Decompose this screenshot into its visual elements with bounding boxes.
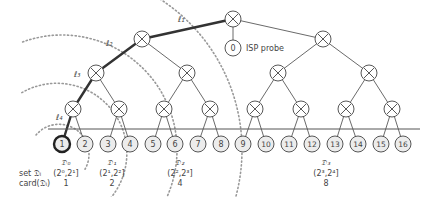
svg-text:𝔇₀: 𝔇₀ [61,158,70,167]
svg-text:4: 4 [127,140,132,149]
mux-node-level-3 [179,65,195,81]
svg-text:15: 15 [376,140,386,149]
svg-text:𝔇₂: 𝔇₂ [175,158,184,167]
distance-arc [22,0,242,197]
mux-node-level-4 [111,101,127,117]
leaf-node-2: 2 [77,136,93,152]
svg-text:(2⁰,2¹]: (2⁰,2¹] [53,169,78,178]
svg-text:3: 3 [105,140,110,149]
mux-node-level-4 [202,101,218,117]
svg-text:2: 2 [109,179,114,188]
svg-text:8: 8 [323,179,328,188]
distance-arcs [22,0,242,197]
path-segment-label: ℓ₂ [105,39,113,48]
isp-probe-caption: ISP probe [246,44,284,53]
tree-diagram: 012345678910111213141516 ISP probeℓ₁ℓ₂ℓ₃… [0,0,438,197]
leaf-node-13: 13 [327,136,343,152]
svg-text:12: 12 [307,140,317,149]
isp-probe-node: 0 [225,40,241,56]
path-segment-label: ℓ₃ [73,70,81,79]
mux-node-level-3 [270,65,286,81]
labels: ISP probeℓ₁ℓ₂ℓ₃ℓ₄set 𝔇ᵢcard(𝔇ᵢ)𝔇₀(2⁰,2¹]… [19,15,339,188]
svg-text:13: 13 [330,140,340,149]
row-label-card: card(𝔇ᵢ) [19,179,50,188]
svg-text:0: 0 [230,44,235,53]
root-mux-node [225,11,241,27]
tree-edge [142,39,187,73]
leaf-node-1: 1 [54,136,70,152]
svg-text:1: 1 [63,179,68,188]
leaf-node-12: 12 [304,136,320,152]
mux-node-level-4 [293,101,309,117]
svg-text:16: 16 [398,140,408,149]
svg-text:(2²,2³]: (2²,2³] [167,169,192,178]
svg-text:4: 4 [177,179,182,188]
leaf-node-15: 15 [373,136,389,152]
mux-node-level-3 [361,65,377,81]
set-column: 𝔇₂(2²,2³]4 [167,158,192,188]
svg-text:10: 10 [261,140,271,149]
mux-node-level-2 [134,31,150,47]
svg-text:2: 2 [82,140,87,149]
mux-node-level-3 [88,65,104,81]
mux-node-level-2 [315,31,331,47]
leaf-node-4: 4 [122,136,138,152]
svg-text:9: 9 [240,140,245,149]
path-segment-label: ℓ₄ [55,113,63,122]
mux-node-level-4 [384,101,400,117]
tree-edge [323,39,369,73]
svg-text:11: 11 [284,140,294,149]
leaf-node-5: 5 [145,136,161,152]
row-label-set: set 𝔇ᵢ [19,169,41,178]
svg-text:(2³,2⁴]: (2³,2⁴] [313,169,338,178]
mux-node-level-4 [156,101,172,117]
leaf-node-6: 6 [167,136,183,152]
leaf-node-16: 16 [395,136,411,152]
svg-text:8: 8 [218,140,223,149]
svg-text:(2¹,2²]: (2¹,2²] [99,169,124,178]
leaf-node-10: 10 [258,136,274,152]
tree-edges [62,19,403,144]
mux-node-level-4 [338,101,354,117]
set-column: 𝔇₀(2⁰,2¹]1 [53,158,78,188]
svg-text:14: 14 [353,140,363,149]
leaf-node-7: 7 [190,136,206,152]
mux-node-level-4 [65,101,81,117]
leaf-node-9: 9 [235,136,251,152]
set-column: 𝔇₁(2¹,2²]2 [99,158,124,188]
tree-edge [278,39,323,73]
svg-text:6: 6 [172,140,177,149]
svg-text:5: 5 [150,140,155,149]
path-segment-label: ℓ₁ [177,15,185,24]
svg-text:𝔇₁: 𝔇₁ [107,158,116,167]
set-column: 𝔇₃(2³,2⁴]8 [313,158,338,188]
mux-node-level-4 [247,101,263,117]
svg-text:1: 1 [59,140,64,149]
tree-edge [233,19,323,39]
svg-text:7: 7 [195,140,200,149]
leaf-node-14: 14 [350,136,366,152]
svg-text:𝔇₃: 𝔇₃ [321,158,330,167]
leaf-node-8: 8 [213,136,229,152]
leaf-node-3: 3 [100,136,116,152]
tree-nodes: 012345678910111213141516 [54,11,411,152]
leaf-node-11: 11 [281,136,297,152]
